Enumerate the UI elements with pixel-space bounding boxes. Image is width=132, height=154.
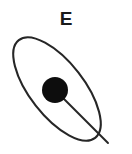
earth-body-icon bbox=[42, 77, 68, 103]
earth-label: E bbox=[0, 9, 132, 28]
orbit-diagram: E bbox=[0, 0, 132, 154]
